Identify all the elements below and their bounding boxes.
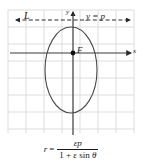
directrix-letter-label: L [24,11,30,21]
equation-fraction: εp 1 + ε sin θ [57,138,98,160]
x-axis-label: x [133,48,136,55]
ellipse-curve [45,27,97,113]
polar-equation: r = εp 1 + ε sin θ [0,134,142,164]
equation-denominator-epsilon: ε [73,150,77,160]
equation-denominator-one: 1 [59,150,64,160]
conic-section-figure: L y y = p x F r = εp 1 + ε sin θ [0,0,142,164]
equation-numerator: εp [71,138,85,148]
equation-denominator-plus: + [66,150,71,160]
focus-label: F [77,46,83,55]
equation-equals-sign: = [49,144,54,154]
equation-denominator-sin: sin [79,150,90,160]
grid [8,10,134,133]
equation-denominator: 1 + ε sin θ [57,150,98,160]
directrix-equation-label: y = p [86,12,105,21]
equation-denominator-theta: θ [92,150,96,160]
y-axis-label: y [66,9,69,16]
equation-row: r = εp 1 + ε sin θ [44,138,99,160]
equation-lhs: r [44,144,48,154]
focus-dot [71,51,76,56]
